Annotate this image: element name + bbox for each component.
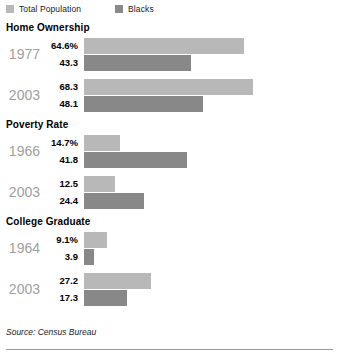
bar-group: 200312.524.4 xyxy=(0,174,337,210)
bar-group-bars: 64.6%43.3 xyxy=(46,37,337,71)
chart-sections: Home Ownership197764.6%43.3200368.348.1P… xyxy=(0,22,337,307)
bar-total-population xyxy=(84,135,120,151)
bar-row: 12.5 xyxy=(46,175,337,192)
bar-blacks xyxy=(84,152,187,168)
bar-group: 19649.1%3.9 xyxy=(0,230,337,266)
bar-value-label: 14.7% xyxy=(46,138,84,148)
chart-section: Poverty Rate196614.7%41.8200312.524.4 xyxy=(0,119,337,210)
bar-row: 27.2 xyxy=(46,272,337,289)
bar-value-label: 41.8 xyxy=(46,155,84,165)
legend-label-blacks: Blacks xyxy=(128,4,154,14)
section-title: College Graduate xyxy=(0,216,337,227)
chart-section: College Graduate19649.1%3.9200327.217.3 xyxy=(0,216,337,307)
bar-group-bars: 12.524.4 xyxy=(46,175,337,209)
bar-group-bars: 68.348.1 xyxy=(46,78,337,112)
bar-row: 14.7% xyxy=(46,134,337,151)
bar-row: 9.1% xyxy=(46,231,337,248)
bottom-divider xyxy=(6,349,333,350)
bar-group: 200368.348.1 xyxy=(0,77,337,113)
bar-group-bars: 9.1%3.9 xyxy=(46,231,337,265)
legend-swatch-blacks xyxy=(115,5,123,13)
legend-item-blacks: Blacks xyxy=(115,4,154,14)
bar-value-label: 17.3 xyxy=(46,293,84,303)
bar-total-population xyxy=(84,79,253,95)
bar-blacks xyxy=(84,96,203,112)
bar-blacks xyxy=(84,290,127,306)
bar-row: 48.1 xyxy=(46,95,337,112)
bar-value-label: 27.2 xyxy=(46,276,84,286)
bar-group-bars: 27.217.3 xyxy=(46,272,337,306)
bar-blacks xyxy=(84,55,191,71)
bar-row: 41.8 xyxy=(46,151,337,168)
bar-group: 196614.7%41.8 xyxy=(0,133,337,169)
bar-group: 197764.6%43.3 xyxy=(0,36,337,72)
bar-value-label: 9.1% xyxy=(46,235,84,245)
bar-total-population xyxy=(84,232,107,248)
bar-value-label: 24.4 xyxy=(46,196,84,206)
group-year-label: 2003 xyxy=(0,282,46,296)
bar-value-label: 43.3 xyxy=(46,58,84,68)
bar-value-label: 64.6% xyxy=(46,41,84,51)
bar-value-label: 68.3 xyxy=(46,82,84,92)
bar-value-label: 12.5 xyxy=(46,179,84,189)
section-title: Home Ownership xyxy=(0,22,337,33)
bar-total-population xyxy=(84,273,151,289)
bar-total-population xyxy=(84,38,244,54)
bar-row: 17.3 xyxy=(46,289,337,306)
legend-swatch-total-population xyxy=(6,5,14,13)
chart-container: Total Population Blacks Home Ownership19… xyxy=(0,0,337,357)
group-year-label: 2003 xyxy=(0,185,46,199)
chart-section: Home Ownership197764.6%43.3200368.348.1 xyxy=(0,22,337,113)
group-year-label: 1977 xyxy=(0,47,46,61)
bar-blacks xyxy=(84,249,94,265)
legend-item-total-population: Total Population xyxy=(6,4,81,14)
chart-legend: Total Population Blacks xyxy=(0,0,337,16)
bar-row: 64.6% xyxy=(46,37,337,54)
bar-group: 200327.217.3 xyxy=(0,271,337,307)
bar-total-population xyxy=(84,176,115,192)
section-title: Poverty Rate xyxy=(0,119,337,130)
bar-value-label: 3.9 xyxy=(46,252,84,262)
legend-label-total-population: Total Population xyxy=(19,4,81,14)
group-year-label: 2003 xyxy=(0,88,46,102)
bar-value-label: 48.1 xyxy=(46,99,84,109)
bar-row: 68.3 xyxy=(46,78,337,95)
bar-row: 3.9 xyxy=(46,248,337,265)
bar-group-bars: 14.7%41.8 xyxy=(46,134,337,168)
source-note: Source: Census Bureau xyxy=(6,327,96,337)
bar-blacks xyxy=(84,193,144,209)
group-year-label: 1966 xyxy=(0,144,46,158)
bar-row: 43.3 xyxy=(46,54,337,71)
group-year-label: 1964 xyxy=(0,241,46,255)
bar-row: 24.4 xyxy=(46,192,337,209)
